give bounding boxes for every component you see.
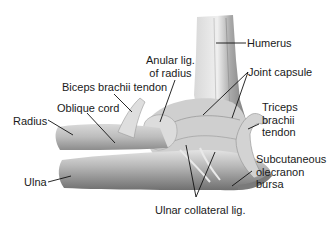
label-radius: Radius [13, 115, 47, 128]
label-humerus: Humerus [247, 37, 292, 50]
elbow-anatomy-figure: Humerus Anular lig. of radius Joint caps… [0, 0, 333, 228]
radius-bone [56, 124, 168, 150]
label-anular-ligament: Anular lig. of radius [146, 54, 195, 79]
label-ulnar-collateral-ligament: Ulnar collateral lig. [155, 204, 245, 217]
label-joint-capsule: Joint capsule [248, 66, 312, 79]
label-ulna: Ulna [24, 176, 47, 189]
label-subcutaneous-olecranon-bursa: Subcutaneous olecranon bursa [256, 153, 326, 191]
label-triceps-brachii-tendon: Triceps brachii tendon [262, 101, 298, 139]
ulna-bone [59, 150, 270, 190]
label-oblique-cord: Oblique cord [57, 102, 119, 115]
label-biceps-brachii-tendon: Biceps brachii tendon [62, 81, 167, 94]
